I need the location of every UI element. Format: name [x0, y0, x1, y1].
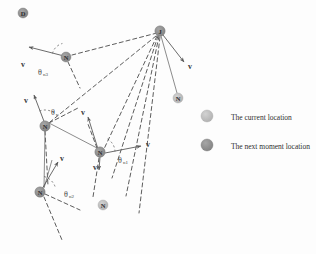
angle-subscript: n1 [123, 160, 129, 165]
graph-node-n-bottom-left[interactable]: N [35, 187, 45, 197]
angle-label-n3: θn3 [38, 68, 49, 77]
velocity-label: v [60, 154, 64, 163]
velocity-label: v [93, 163, 97, 172]
node-label: N [101, 202, 106, 209]
graph-node-n-top-left[interactable]: D [18, 8, 28, 18]
velocity-label: v [21, 60, 25, 69]
node-label: N [98, 149, 103, 156]
angle-subscript: c [56, 112, 59, 117]
angle-labels-group: θn3θcθn2θn1 [38, 68, 129, 199]
velocity-label: v [24, 96, 28, 105]
dashed-edge [72, 33, 157, 55]
legend-swatch [201, 139, 213, 151]
legend-swatch [201, 110, 213, 122]
node-label: N [176, 95, 181, 102]
node-label: N [64, 54, 69, 61]
solid-edge [44, 131, 45, 187]
legend-label: The current location [231, 113, 292, 122]
angle-subscript: n3 [43, 72, 49, 77]
velocity-arrow [163, 35, 184, 62]
velocity-arrow [29, 47, 64, 56]
legend-current: The current location [201, 110, 292, 122]
diagram-svg: vvvvvvv DJNNNNNN θn3θcθn2θn1 The current… [0, 0, 316, 254]
dashed-edge [104, 36, 157, 149]
legend-group: The current locationThe next moment loca… [201, 110, 310, 151]
solid-edge [161, 36, 177, 93]
node-label: N [43, 123, 48, 130]
angle-arc [108, 139, 115, 151]
diagram-canvas: vvvvvvv DJNNNNNN θn3θcθn2θn1 The current… [0, 0, 316, 254]
graph-node-n-right-mid[interactable]: N [173, 93, 183, 103]
graph-node-n-lower-mid[interactable]: N [95, 147, 105, 157]
graph-node-n-bottom-mid[interactable]: N [98, 200, 108, 210]
graph-node-n-mid-left[interactable]: N [40, 121, 50, 131]
legend-next: The next moment location [201, 139, 310, 151]
graph-node-n-hub[interactable]: J [155, 26, 165, 36]
solid-edge [49, 123, 97, 148]
node-label: N [38, 189, 43, 196]
dashed-edge [68, 62, 80, 88]
dashed-edge [44, 197, 62, 240]
angle-label-c: θc [51, 108, 59, 117]
angle-label-n1: θn1 [118, 156, 129, 165]
dashed-edge [45, 131, 48, 186]
angle-subscript: n2 [69, 194, 75, 199]
velocity-arrow [34, 95, 45, 124]
dashed-edge [45, 194, 80, 210]
velocity-label: v [188, 62, 192, 71]
velocity-label: v [81, 108, 85, 117]
dashed-edge [126, 36, 159, 196]
dashed-edge [50, 36, 156, 122]
angle-arc [52, 43, 62, 53]
graph-node-n-upper-left[interactable]: N [61, 52, 71, 62]
node-label: D [21, 10, 26, 17]
velocity-label: v [146, 140, 150, 149]
angle-label-n2: θn2 [64, 190, 75, 199]
legend-label: The next moment location [231, 142, 310, 151]
